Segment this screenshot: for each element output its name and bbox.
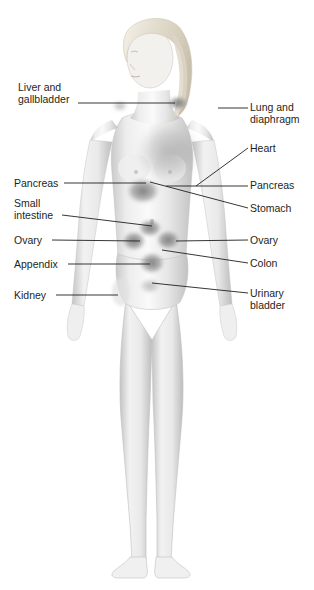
liver-shoulder-marker-region (112, 100, 128, 112)
label-stomach: Stomach (250, 203, 291, 215)
label-lung-diaphragm: Lung anddiaphragm (250, 102, 300, 125)
label-colon: Colon (250, 258, 277, 270)
label-liver-gallbladder: Liver andgallbladder (18, 82, 69, 105)
label-urinary-bladder: Urinarybladder (250, 288, 285, 311)
label-line: diaphragm (250, 114, 300, 126)
hand-left (67, 304, 84, 341)
arm-left (72, 140, 112, 306)
label-line: Ovary (250, 235, 278, 247)
label-line: Small (14, 198, 53, 210)
label-line: intestine (14, 210, 53, 222)
label-appendix: Appendix (14, 259, 58, 271)
label-line: Stomach (250, 203, 291, 215)
heart-lung-field-region (135, 121, 201, 183)
label-line: Heart (250, 143, 276, 155)
figure-body (67, 18, 237, 578)
label-line: Urinary (250, 288, 285, 300)
foot-right (155, 557, 190, 578)
hand-right (220, 304, 237, 341)
label-small-intestine: Smallintestine (14, 198, 53, 221)
label-heart: Heart (250, 143, 276, 155)
label-line: Pancreas (250, 180, 294, 192)
leg-left (120, 300, 152, 560)
label-ovary-right: Ovary (250, 235, 278, 247)
label-line: Pancreas (14, 178, 58, 190)
label-line: gallbladder (18, 94, 69, 106)
label-ovary-left: Ovary (14, 235, 42, 247)
label-kidney: Kidney (14, 290, 46, 302)
foot-left (112, 557, 147, 578)
label-pancreas-right: Pancreas (250, 180, 294, 192)
label-line: Liver and (18, 82, 69, 94)
ovary-right-region (156, 230, 180, 250)
label-line: Kidney (14, 290, 46, 302)
label-line: Lung and (250, 102, 300, 114)
label-line: Ovary (14, 235, 42, 247)
nipple-left (134, 170, 138, 174)
bladder-region (139, 278, 161, 294)
leg-right (152, 300, 183, 560)
stomach-epigastric-region (126, 178, 160, 204)
colon-region (139, 252, 165, 274)
kidney-flank-region (112, 278, 130, 306)
label-line: Appendix (14, 259, 58, 271)
label-pancreas-left: Pancreas (14, 178, 58, 190)
label-line: bladder (250, 300, 285, 312)
label-line: Colon (250, 258, 277, 270)
anatomy-diagram: Liver andgallbladderPancreasSmallintesti… (0, 0, 314, 590)
